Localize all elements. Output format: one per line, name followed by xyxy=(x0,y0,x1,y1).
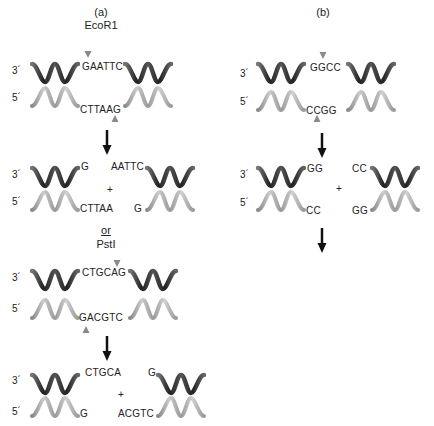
or-label: or xyxy=(96,224,116,236)
three-prime-label: 3´ xyxy=(12,169,21,180)
psti-left-bottom: G xyxy=(80,408,88,419)
enzyme-psti-label: PstI xyxy=(91,238,121,250)
arrow-down-icon xyxy=(103,130,112,155)
five-prime-label: 5´ xyxy=(12,406,21,417)
five-prime-label: 5´ xyxy=(240,96,249,107)
five-prime-label: 5´ xyxy=(12,196,21,207)
panel-a-label: (a) xyxy=(86,6,116,18)
products-b-right-bottom: GG xyxy=(352,205,368,216)
products-b-right-top: CC xyxy=(352,163,367,174)
arrow-down-icon xyxy=(103,336,112,361)
ecor1-bottom-sequence: CTTAAG xyxy=(80,104,121,115)
five-prime-label: 5´ xyxy=(12,92,21,103)
arrow-down-icon xyxy=(318,228,327,253)
plus-sign: + xyxy=(107,184,113,195)
ecor1-top-sequence: GAATTC xyxy=(82,61,123,72)
ecor1-right-bottom: G xyxy=(134,203,142,214)
ecor1-left-top: G xyxy=(81,161,89,172)
psti-right-bottom: ACGTC xyxy=(118,408,154,419)
three-prime-label: 3´ xyxy=(240,169,249,180)
arrow-down-icon xyxy=(318,133,327,158)
three-prime-label: 3´ xyxy=(12,272,21,283)
psti-right-top: G xyxy=(148,367,156,378)
ecor1-left-bottom: CTTAA xyxy=(80,203,113,214)
panel-b-label: (b) xyxy=(308,6,338,18)
psti-bottom-sequence: GACGTC xyxy=(79,312,123,323)
plus-sign: + xyxy=(118,389,124,400)
diagram-graphics xyxy=(0,0,434,426)
products-b-left-bottom: CC xyxy=(306,205,321,216)
site-b-top-sequence: GGCC xyxy=(310,62,341,73)
enzyme-ecor1-label: EcoR1 xyxy=(76,19,126,31)
products-b-left-top: GG xyxy=(307,163,323,174)
three-prime-label: 3´ xyxy=(12,65,21,76)
psti-top-sequence: CTGCAG xyxy=(82,267,126,278)
five-prime-label: 5´ xyxy=(12,303,21,314)
psti-left-top: CTGCA xyxy=(85,367,121,378)
three-prime-label: 3´ xyxy=(240,68,249,79)
ecor1-right-top: AATTC xyxy=(111,161,144,172)
three-prime-label: 3´ xyxy=(12,375,21,386)
plus-sign: + xyxy=(336,183,342,194)
site-b-bottom-sequence: CCGG xyxy=(306,105,337,116)
five-prime-label: 5´ xyxy=(240,197,249,208)
